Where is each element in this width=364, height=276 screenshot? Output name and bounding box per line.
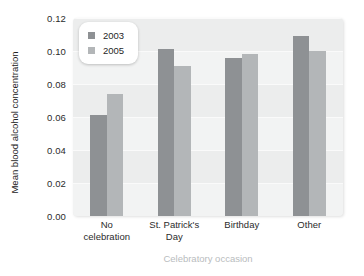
y-tick-label: 0.10 bbox=[47, 46, 66, 57]
bar-2005 bbox=[107, 94, 124, 216]
y-tick-label: 0.02 bbox=[47, 178, 66, 189]
legend-label-2005: 2005 bbox=[103, 45, 124, 56]
y-tick-label: 0.04 bbox=[47, 145, 66, 156]
legend-swatch-icon-2005 bbox=[88, 47, 95, 54]
y-tick-label: 0.08 bbox=[47, 79, 66, 90]
bar-2003 bbox=[225, 58, 242, 216]
y-axis: Mean blood alcohol concentration 0.000.0… bbox=[0, 0, 73, 276]
y-tick-label: 0.06 bbox=[47, 112, 66, 123]
x-tick-label: St. Patrick's Day bbox=[141, 219, 209, 242]
y-axis-title: Mean blood alcohol concentration bbox=[9, 23, 20, 223]
bar-2005 bbox=[174, 66, 191, 216]
x-axis-title: Celebratory occasion bbox=[73, 253, 343, 264]
bar-2003 bbox=[158, 49, 175, 216]
chart-figure: Mean blood alcohol concentration 0.000.0… bbox=[0, 0, 364, 276]
gridline bbox=[73, 18, 343, 19]
bar-2005 bbox=[242, 54, 259, 216]
x-tick-label: Birthday bbox=[208, 219, 276, 231]
legend-item-2003: 2003 bbox=[88, 28, 124, 43]
chart-legend: 2003 2005 bbox=[79, 22, 138, 64]
x-tick-label: Other bbox=[276, 219, 344, 231]
y-tick-label: 0.12 bbox=[47, 13, 66, 24]
legend-item-2005: 2005 bbox=[88, 43, 124, 58]
bar-2003 bbox=[293, 36, 310, 216]
bar-2003 bbox=[90, 115, 107, 216]
x-tick-label: No celebration bbox=[73, 219, 141, 242]
legend-label-2003: 2003 bbox=[103, 30, 124, 41]
bar-2005 bbox=[309, 51, 326, 216]
legend-swatch-icon-2003 bbox=[88, 32, 95, 39]
y-tick-label: 0.00 bbox=[47, 211, 66, 222]
